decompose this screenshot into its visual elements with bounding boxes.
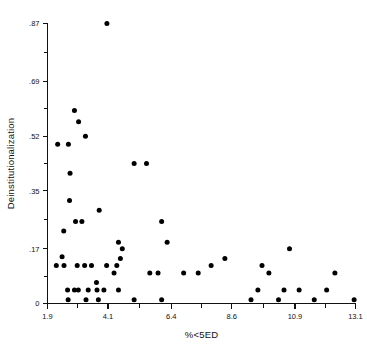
data-point [132, 161, 137, 166]
y-axis-tick-label: 0 [35, 299, 39, 308]
x-axis-tick-label: 8.6 [227, 312, 237, 321]
data-point [332, 270, 337, 275]
y-axis-tick-label: .35 [29, 187, 39, 196]
data-point [120, 246, 125, 251]
data-point [73, 219, 78, 224]
data-point [62, 263, 67, 268]
data-point [66, 142, 71, 147]
data-point [297, 287, 302, 292]
y-axis-tick-label: .87 [29, 19, 39, 28]
x-axis-tick-label: 1.9 [42, 312, 52, 321]
data-point [67, 198, 72, 203]
data-point [352, 297, 357, 302]
data-point [181, 270, 186, 275]
data-point [196, 270, 201, 275]
y-axis-tick-label: .69 [29, 77, 39, 86]
axis-labels-group: 1.94.16.48.610.913.10.17.35.52.69.87%<5E… [5, 19, 363, 339]
data-point [324, 287, 329, 292]
data-point [104, 263, 109, 268]
data-point [116, 287, 121, 292]
data-point [101, 287, 106, 292]
data-point [116, 240, 121, 245]
data-point [104, 21, 109, 26]
data-point [76, 287, 81, 292]
data-point [83, 134, 88, 139]
data-point [312, 297, 317, 302]
x-axis-tick-label: 10.9 [288, 312, 303, 321]
data-point [159, 297, 164, 302]
data-point [68, 171, 73, 176]
data-point [209, 263, 214, 268]
data-point [159, 219, 164, 224]
data-point [222, 256, 227, 261]
data-point [144, 161, 149, 166]
y-axis-title: Deinstitutionalization [5, 118, 16, 210]
data-point [84, 297, 89, 302]
data-point [112, 270, 117, 275]
data-point [82, 263, 87, 268]
data-point [266, 270, 271, 275]
data-point [147, 270, 152, 275]
y-axis-tick-label: .17 [29, 245, 39, 254]
x-axis-tick-label: 4.1 [103, 312, 113, 321]
data-point [60, 254, 65, 259]
x-axis-title: %<5ED [185, 329, 218, 340]
data-point [61, 229, 66, 234]
data-points-group [54, 21, 357, 302]
data-point [118, 256, 123, 261]
data-point [79, 219, 84, 224]
data-point [55, 142, 60, 147]
data-point [72, 108, 77, 113]
data-point [260, 263, 265, 268]
data-point [97, 208, 102, 213]
data-point [165, 240, 170, 245]
data-point [156, 270, 161, 275]
data-point [96, 297, 101, 302]
data-point [114, 263, 119, 268]
data-point [287, 246, 292, 251]
data-point [75, 263, 80, 268]
data-point [132, 297, 137, 302]
data-point [255, 287, 260, 292]
data-point [76, 119, 81, 124]
plot-canvas: 1.94.16.48.610.913.10.17.35.52.69.87%<5E… [0, 0, 367, 355]
x-axis-tick-label: 13.1 [348, 312, 363, 321]
data-point [66, 297, 71, 302]
data-point [249, 297, 254, 302]
y-axis-tick-label: .52 [29, 132, 39, 141]
data-point [95, 287, 100, 292]
x-axis-tick-label: 6.4 [166, 312, 176, 321]
data-point [54, 263, 59, 268]
data-point [65, 287, 70, 292]
data-point [276, 297, 281, 302]
data-point [89, 263, 94, 268]
data-point [86, 287, 91, 292]
data-point [282, 287, 287, 292]
scatter-plot-figure: 1.94.16.48.610.913.10.17.35.52.69.87%<5E… [0, 0, 367, 355]
data-point [94, 280, 99, 285]
